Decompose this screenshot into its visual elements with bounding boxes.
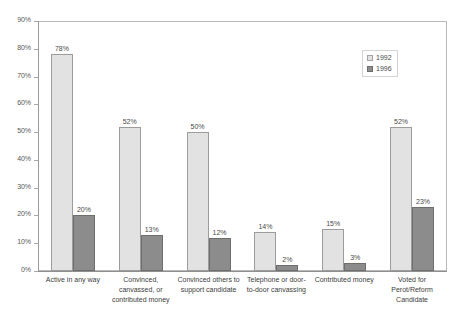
y-axis-tick-mark [34,104,38,105]
bar-1996-1[interactable]: 20% [73,215,95,271]
bar-1996-5[interactable]: 3% [344,263,366,271]
y-axis-tick-mark [34,243,38,244]
bar-value-label: 13% [145,225,159,234]
legend-label: 1996 [376,65,392,73]
bar-1992-3[interactable]: 50% [187,132,209,271]
bar-1992-2[interactable]: 52% [119,127,141,271]
y-axis-tick-mark [34,160,38,161]
y-axis-tick-label: 10% [17,238,31,245]
y-axis-tick-label: 20% [17,210,31,217]
x-axis-label-3: Convinced others to support candidate [175,275,243,305]
legend-swatch-1996-icon [367,66,373,72]
bar-value-label: 14% [258,222,272,231]
bar-group: 52%13% [107,21,175,271]
y-axis-tick-mark [34,49,38,50]
legend-item-1996[interactable]: 1996 [367,65,392,73]
x-axis-category-labels: Active in any wayConvinced, canvassed, o… [39,275,446,305]
y-axis-tick-label: 80% [17,44,31,51]
bar-group: 14%2% [242,21,310,271]
x-axis-label-5: Contributed money [310,275,378,305]
y-axis-tick-label: 0% [21,266,31,273]
x-axis-label-4: Telephone or door-to-door canvassing [242,275,310,305]
bar-value-label: 78% [55,44,69,53]
bar-chart: 0%10%20%30%40%50%60%70%80%90% 78%20%52%1… [0,0,455,330]
bar-value-label: 52% [123,117,137,126]
x-axis-label-1: Active in any way [39,275,107,305]
bar-value-label: 12% [213,228,227,237]
legend-swatch-1992-icon [367,55,373,61]
y-axis-tick-mark [34,77,38,78]
bar-group: 50%12% [175,21,243,271]
bar-value-label: 52% [394,117,408,126]
x-axis-label-2: Convinced, canvassed, or contributed mon… [107,275,175,305]
bar-value-label: 20% [77,205,91,214]
bar-group: 78%20% [39,21,107,271]
bar-1992-6[interactable]: 52% [390,127,412,271]
bar-1996-2[interactable]: 13% [141,235,163,271]
bar-1992-5[interactable]: 15% [322,229,344,271]
bar-value-label: 2% [282,255,292,264]
bar-value-label: 15% [326,219,340,228]
y-axis-tick-label: 70% [17,72,31,79]
y-axis-tick-label: 40% [17,155,31,162]
x-axis-line [38,271,447,272]
y-axis-tick-label: 60% [17,99,31,106]
y-axis-tick-mark [34,21,38,22]
chart-legend: 19921996 [362,50,398,77]
bar-1996-4[interactable]: 2% [276,265,298,271]
bar-1992-4[interactable]: 14% [254,232,276,271]
bar-1992-1[interactable]: 78% [51,54,73,271]
y-axis-tick-mark [34,215,38,216]
bar-value-label: 23% [416,197,430,206]
bar-1996-6[interactable]: 23% [412,207,434,271]
y-axis-tick-mark [34,188,38,189]
y-axis-tick-label: 90% [17,16,31,23]
bar-value-label: 50% [191,122,205,131]
bar-1996-3[interactable]: 12% [209,238,231,271]
y-axis-tick-label: 50% [17,127,31,134]
x-axis-label-6: Voted for Perot/Reform Candidate [378,275,446,305]
y-axis-tick-label: 30% [17,183,31,190]
bar-value-label: 3% [350,253,360,262]
legend-item-1992[interactable]: 1992 [367,54,392,62]
legend-label: 1992 [376,54,392,62]
y-axis-tick-mark [34,132,38,133]
